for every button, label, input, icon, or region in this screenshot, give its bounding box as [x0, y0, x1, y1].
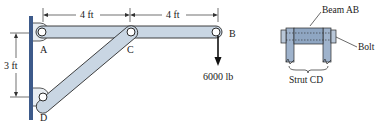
load-arrowhead-icon: [215, 57, 222, 66]
pin-c: [127, 28, 135, 36]
load-label: 6000 lb: [203, 71, 233, 82]
bolt-label: Bolt: [358, 42, 375, 52]
label-d: D: [40, 112, 47, 122]
wall: [29, 16, 33, 120]
label-a: A: [40, 44, 48, 55]
strut-cd: [36, 26, 137, 113]
pin-d: [39, 93, 47, 101]
label-b: B: [229, 28, 236, 39]
dim-ac-label: 4 ft: [80, 9, 94, 20]
beam-ab-label: Beam AB: [322, 5, 359, 15]
strut-cd-label: Strut CD: [289, 75, 323, 85]
detail-view: [281, 12, 357, 73]
pin-b: [212, 28, 220, 36]
truss-diagram: 4 ft 4 ft 3 ft A C B D 6000 lb Beam AB B…: [0, 0, 389, 122]
dim-cb-label: 4 ft: [166, 9, 180, 20]
pin-a: [38, 28, 46, 36]
label-c: C: [127, 44, 134, 55]
dim-ad-label: 3 ft: [4, 60, 18, 71]
